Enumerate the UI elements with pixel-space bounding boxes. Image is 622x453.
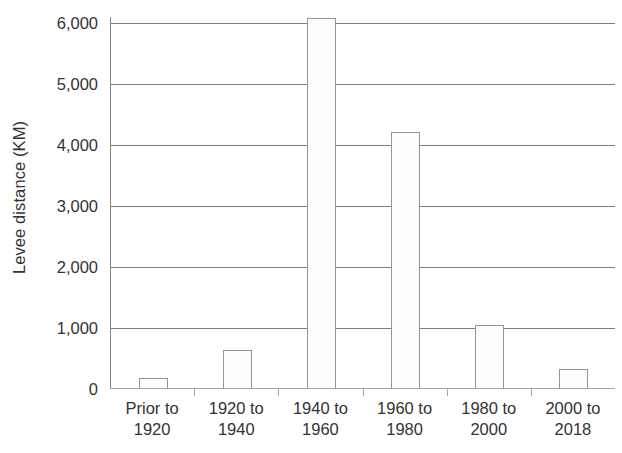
y-axis-tick-label: 4,000 — [57, 137, 98, 154]
y-axis-tick-label: 5,000 — [57, 76, 98, 93]
x-axis-category-label-line: Prior to — [110, 398, 194, 419]
y-axis-tick-label: 1,000 — [57, 320, 98, 337]
bar-slot — [111, 17, 195, 388]
x-axis-category-label-line: 1960 — [278, 419, 362, 440]
x-axis-category-label: 1920 to1940 — [194, 398, 278, 453]
x-axis-tick — [194, 389, 195, 396]
x-axis-category-label-line: 2018 — [531, 419, 615, 440]
bars-group — [111, 17, 615, 388]
x-axis-category-label: 2000 to2018 — [531, 398, 615, 453]
x-axis-category-label-line: 1980 — [363, 419, 447, 440]
bar[interactable] — [223, 350, 252, 388]
x-axis-category-label-line: 1940 — [194, 419, 278, 440]
x-axis-category-label: 1960 to1980 — [363, 398, 447, 453]
bar[interactable] — [139, 378, 168, 388]
plot-area — [110, 17, 615, 389]
y-axis-tick-label: 0 — [89, 381, 98, 398]
x-axis-ticks — [110, 389, 615, 396]
x-axis-tick — [363, 389, 364, 396]
y-axis-title: Levee distance (KM) — [0, 0, 40, 395]
bar[interactable] — [559, 369, 588, 389]
y-axis-title-label: Levee distance (KM) — [11, 121, 30, 274]
bar[interactable] — [475, 325, 504, 388]
x-axis-category-label: 1940 to1960 — [278, 398, 362, 453]
bar-slot — [195, 17, 279, 388]
x-axis-tick — [447, 389, 448, 396]
bar-slot — [279, 17, 363, 388]
y-axis-tick-label: 6,000 — [57, 15, 98, 32]
x-axis-category-label-line: 1940 to — [278, 398, 362, 419]
x-axis-tick — [531, 389, 532, 396]
x-axis-category-label-line: 1920 to — [194, 398, 278, 419]
x-axis-category-label-line: 1960 to — [363, 398, 447, 419]
y-axis-tick-labels: 01,0002,0003,0004,0005,0006,000 — [38, 0, 104, 400]
bar[interactable] — [391, 132, 420, 388]
x-axis-category-label: 1980 to2000 — [447, 398, 531, 453]
x-axis-category-label-line: 2000 — [447, 419, 531, 440]
bar-slot — [531, 17, 615, 388]
x-axis-category-label-line: 1980 to — [447, 398, 531, 419]
bar-chart: Levee distance (KM) 01,0002,0003,0004,00… — [0, 0, 622, 453]
x-axis-category-label: Prior to1920 — [110, 398, 194, 453]
x-axis-category-label-line: 2000 to — [531, 398, 615, 419]
x-axis-category-label-line: 1920 — [110, 419, 194, 440]
x-axis-category-labels: Prior to19201920 to19401940 to19601960 t… — [110, 398, 615, 453]
y-axis-tick-label: 2,000 — [57, 259, 98, 276]
y-axis-tick-label: 3,000 — [57, 198, 98, 215]
bar-slot — [447, 17, 531, 388]
bar-slot — [363, 17, 447, 388]
x-axis-tick — [278, 389, 279, 396]
bar[interactable] — [307, 18, 336, 388]
